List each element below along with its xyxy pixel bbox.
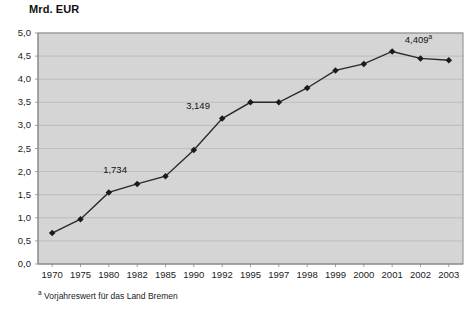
plot-area: 0,00,51,01,52,02,53,03,54,04,55,0 197019… (0, 0, 475, 312)
footnote-text: Vorjahreswert für das Land Bremen (42, 291, 178, 301)
x-axis-tick-label: 2003 (429, 269, 469, 280)
data-value-label: 1,734 (103, 164, 127, 175)
data-value-label: 3,149 (186, 100, 210, 111)
y-axis-tick-label: 4,0 (5, 73, 31, 84)
y-axis-tick-label: 3,0 (5, 119, 31, 130)
y-axis-tick-label: 0,0 (5, 258, 31, 269)
chart-figure: Mrd. EUR 0,00,51,01,52,02,53,03,54,04,55… (0, 0, 475, 312)
data-value-label: 4,409a (405, 33, 432, 45)
y-axis-tick-label: 1,5 (5, 189, 31, 200)
value-label-text: 1,734 (103, 164, 127, 175)
y-axis-tick-label: 3,5 (5, 96, 31, 107)
y-axis-tick-label: 2,5 (5, 143, 31, 154)
y-axis-tick-label: 2,0 (5, 166, 31, 177)
y-axis-tick-label: 0,5 (5, 235, 31, 246)
y-axis-tick-label: 4,5 (5, 50, 31, 61)
value-label-superscript: a (429, 33, 433, 40)
y-axis-tick-label: 1,0 (5, 212, 31, 223)
value-label-text: 4,409 (405, 34, 429, 45)
chart-canvas (0, 0, 475, 312)
footnote: a Vorjahreswert für das Land Bremen (38, 289, 178, 301)
y-axis-tick-label: 5,0 (5, 27, 31, 38)
value-label-text: 3,149 (186, 100, 210, 111)
